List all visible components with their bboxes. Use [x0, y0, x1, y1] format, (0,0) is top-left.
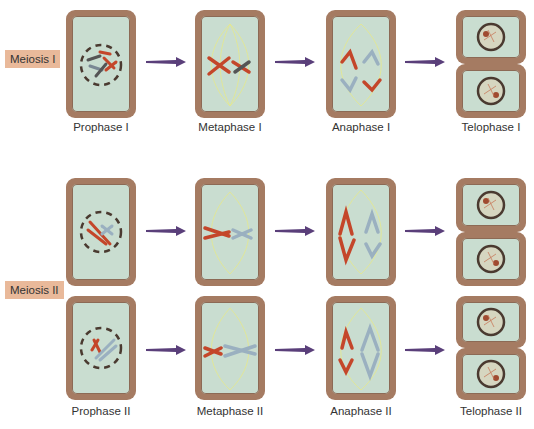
cell-telophase-1-top	[456, 10, 526, 64]
cell-prophase-1	[66, 10, 136, 118]
stage-label-anaphase-1: Anaphase I	[321, 121, 401, 133]
stage-label-telophase-1: Telophase I	[451, 121, 531, 133]
cell-metaphase-1	[195, 10, 265, 118]
metaphase-2-spindle-icon	[195, 178, 265, 286]
prophase-1-chromosomes-icon	[66, 10, 136, 118]
arrow-icon	[275, 57, 315, 67]
arrow-icon	[146, 57, 186, 67]
cell-metaphase-2-bottom	[195, 296, 265, 400]
anaphase-1-chromosomes-icon	[326, 10, 396, 118]
cell-telophase-2-a	[456, 178, 526, 232]
metaphase-2-spindle-icon	[195, 296, 265, 400]
cell-anaphase-2-top	[326, 178, 396, 286]
stage-label-prophase-1: Prophase I	[66, 121, 136, 133]
nucleus-icon	[456, 178, 526, 232]
cell-telophase-2-c	[456, 296, 526, 348]
nucleus-icon	[456, 348, 526, 400]
meiosis-1-label: Meiosis I	[5, 50, 60, 68]
stage-label-metaphase-2: Metaphase II	[190, 405, 270, 417]
cell-prophase-2-bottom	[66, 296, 136, 400]
cell-telophase-2-b	[456, 232, 526, 286]
anaphase-2-chromosomes-icon	[326, 296, 396, 400]
arrow-icon	[275, 226, 315, 236]
stage-label-anaphase-2: Anaphase II	[321, 405, 401, 417]
meiosis-2-label: Meiosis II	[5, 281, 64, 299]
arrow-icon	[146, 345, 186, 355]
prophase-2-chromosomes-icon	[66, 178, 136, 286]
nucleus-icon	[456, 64, 526, 118]
cell-metaphase-2-top	[195, 178, 265, 286]
arrow-icon	[405, 226, 445, 236]
arrow-icon	[146, 226, 186, 236]
prophase-2-chromosomes-icon	[66, 296, 136, 400]
arrow-icon	[405, 57, 445, 67]
cell-telophase-2-d	[456, 348, 526, 400]
metaphase-1-spindle-icon	[195, 10, 265, 118]
nucleus-icon	[456, 232, 526, 286]
arrow-icon	[405, 345, 445, 355]
nucleus-icon	[456, 10, 526, 64]
cell-prophase-2-top	[66, 178, 136, 286]
arrow-icon	[275, 345, 315, 355]
stage-label-telophase-2: Telophase II	[451, 405, 531, 417]
cell-telophase-1-bottom	[456, 64, 526, 118]
stage-label-metaphase-1: Metaphase I	[190, 121, 270, 133]
stage-label-prophase-2: Prophase II	[61, 405, 141, 417]
nucleus-icon	[456, 296, 526, 348]
cell-anaphase-1	[326, 10, 396, 118]
anaphase-2-chromosomes-icon	[326, 178, 396, 286]
cell-anaphase-2-bottom	[326, 296, 396, 400]
